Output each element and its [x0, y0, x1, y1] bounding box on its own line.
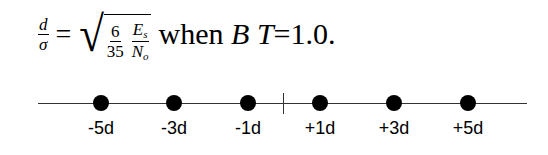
point-plus-5d	[460, 95, 476, 111]
numerator-6: 6	[110, 23, 121, 42]
point-minus-3d	[166, 95, 182, 111]
point-minus-1d	[240, 95, 256, 111]
var-t: T	[257, 17, 274, 50]
point-minus-5d	[93, 95, 109, 111]
fraction-es-no: Es No	[132, 21, 149, 62]
denominator-sigma: σ	[39, 35, 47, 53]
n-symbol: N	[132, 42, 143, 61]
label-minus-1d: -1d	[218, 118, 278, 139]
d-over-sigma: d σ	[38, 16, 49, 53]
square-root: √ 6 35 Es No	[78, 7, 150, 62]
e-symbol: E	[133, 20, 143, 39]
label-plus-3d: +3d	[364, 118, 424, 139]
equals-sign: =	[56, 18, 72, 50]
point-plus-1d	[312, 95, 328, 111]
origin-tick	[283, 93, 284, 114]
numerator-d: d	[38, 16, 49, 35]
condition-value: =1.0.	[274, 17, 336, 50]
numerator-es: Es	[132, 21, 149, 42]
fraction-6-35: 6 35	[107, 23, 124, 60]
label-minus-5d: -5d	[71, 118, 131, 139]
o-subscript: o	[143, 50, 149, 62]
label-plus-1d: +1d	[290, 118, 350, 139]
denominator-35: 35	[107, 42, 124, 60]
point-plus-3d	[386, 95, 402, 111]
condition-text: when B T=1.0.	[159, 17, 336, 51]
when-word: when	[159, 17, 224, 50]
snr-equation: d σ = √ 6 35 Es No when B T=1.0.	[38, 4, 336, 64]
radical-icon: √	[80, 9, 105, 64]
label-minus-3d: -3d	[144, 118, 204, 139]
var-b: B	[231, 17, 249, 50]
s-subscript: s	[143, 28, 147, 40]
denominator-no: No	[132, 42, 149, 62]
label-plus-5d: +5d	[438, 118, 498, 139]
radicand: 6 35 Es No	[104, 14, 151, 62]
